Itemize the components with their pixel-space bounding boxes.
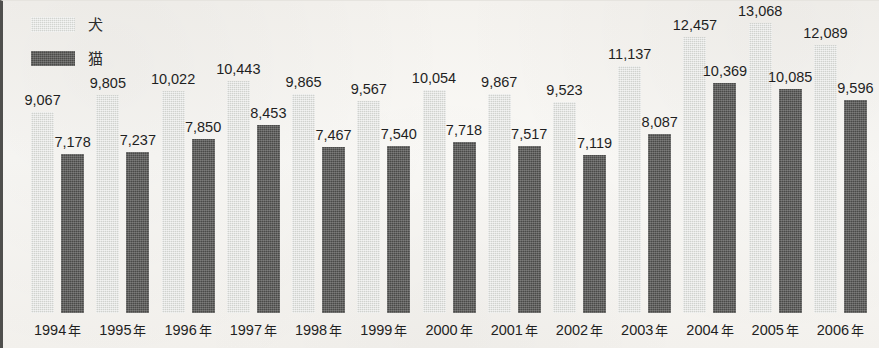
bar-cat: 7,718 (453, 1, 476, 313)
year-unit: 年 (264, 323, 277, 338)
bar-cat: 7,467 (322, 1, 345, 313)
bar-value-label: 7,467 (315, 128, 351, 143)
bar-rect-dog (162, 91, 185, 313)
bar-rect-cat (583, 155, 606, 313)
bar-dog: 10,443 (227, 1, 250, 313)
bar-value-label: 9,865 (285, 75, 321, 90)
year-unit: 年 (199, 323, 212, 338)
bar-value-label: 7,517 (511, 127, 547, 142)
bar-rect-cat (779, 89, 802, 313)
bar-rect-cat (453, 142, 476, 313)
year-unit: 年 (786, 323, 799, 338)
bar-value-label: 9,567 (351, 82, 387, 97)
bar-value-label: 7,850 (185, 120, 221, 135)
bar-rect-dog (488, 94, 511, 313)
bar-pair: 10,0547,718 (416, 1, 481, 313)
year-unit: 年 (590, 323, 603, 338)
bar-dog: 11,137 (618, 1, 641, 313)
bar-rect-dog (618, 66, 641, 313)
legend-swatch-cat (31, 51, 75, 66)
bar-rect-cat (61, 154, 84, 313)
bar-group: 9,8657,4671998年 (286, 1, 351, 348)
bar-rect-dog (423, 90, 446, 313)
x-axis-label: 1999年 (360, 323, 407, 338)
bar-rect-cat (126, 152, 149, 313)
bar-dog: 13,068 (749, 1, 772, 313)
bar-pair: 9,8657,467 (286, 1, 351, 313)
bar-value-label: 11,137 (608, 47, 651, 62)
x-axis-label: 2005年 (752, 323, 799, 338)
legend-swatch-dog (31, 17, 75, 32)
bar-pair: 11,1378,087 (612, 1, 677, 313)
bar-rect-dog (31, 112, 54, 313)
bar-dog: 12,457 (683, 1, 706, 313)
bar-value-label: 7,178 (54, 135, 90, 150)
bar-value-label: 10,085 (768, 70, 812, 85)
bar-cat: 8,087 (648, 1, 671, 313)
year-unit: 年 (133, 323, 146, 338)
year-unit: 年 (329, 323, 342, 338)
bar-rect-dog (292, 94, 315, 313)
legend-label-cat: 猫 (88, 51, 103, 66)
year-unit: 年 (68, 323, 81, 338)
bar-group: 11,1378,0872003年 (612, 1, 677, 348)
bar-rect-dog (553, 102, 576, 313)
bar-rect-cat (713, 83, 736, 313)
bar-dog: 9,865 (292, 1, 315, 313)
bar-rect-dog (749, 23, 772, 313)
bar-rect-cat (387, 146, 410, 313)
bar-group: 9,5677,5401999年 (351, 1, 416, 348)
bar-value-label: 10,369 (703, 64, 747, 79)
bar-group: 10,0547,7182000年 (416, 1, 481, 348)
bar-value-label: 8,087 (642, 115, 678, 130)
bar-group: 10,4438,4531997年 (221, 1, 286, 348)
bar-rect-cat (192, 139, 215, 313)
bar-rect-cat (322, 147, 345, 313)
plot-area: 9,0677,1781994年9,8057,2371995年10,0227,85… (25, 1, 873, 348)
bar-value-label: 12,089 (803, 26, 847, 41)
bar-value-label: 9,867 (481, 75, 517, 90)
bar-cat: 7,119 (583, 1, 606, 313)
year-unit: 年 (460, 323, 473, 338)
bar-value-label: 12,457 (673, 18, 717, 33)
x-axis-label: 1994年 (34, 323, 81, 338)
bar-chart: 犬 猫 9,0677,1781994年9,8057,2371995年10,022… (0, 0, 879, 348)
x-axis-label: 2000年 (425, 323, 472, 338)
bar-cat: 10,369 (713, 1, 736, 313)
legend-item-dog: 犬 (31, 13, 103, 35)
x-axis-label: 2004年 (686, 323, 733, 338)
bar-pair: 12,45710,369 (677, 1, 742, 313)
x-axis-label: 1995年 (99, 323, 146, 338)
bar-dog: 10,022 (162, 1, 185, 313)
bar-pair: 9,5677,540 (351, 1, 416, 313)
bar-rect-cat (648, 134, 671, 313)
bar-dog: 10,054 (423, 1, 446, 313)
bar-cat: 7,540 (387, 1, 410, 313)
bar-rect-dog (357, 101, 380, 313)
bar-value-label: 10,054 (412, 71, 456, 86)
bar-pair: 9,8677,517 (482, 1, 547, 313)
bar-dog: 12,089 (814, 1, 837, 313)
bar-pair: 9,5237,119 (547, 1, 612, 313)
year-unit: 年 (394, 323, 407, 338)
bar-cat: 7,850 (192, 1, 215, 313)
bar-rect-cat (518, 146, 541, 313)
x-axis-label: 2006年 (817, 323, 864, 338)
year-unit: 年 (721, 323, 734, 338)
bar-rect-cat (844, 100, 867, 313)
bar-dog: 9,567 (357, 1, 380, 313)
bar-value-label: 9,067 (24, 93, 60, 108)
bar-pair: 10,4438,453 (221, 1, 286, 313)
bar-group: 12,45710,3692004年 (677, 1, 742, 348)
bar-group: 9,8677,5172001年 (482, 1, 547, 348)
x-axis-label: 2002年 (556, 323, 603, 338)
bar-group: 10,0227,8501996年 (155, 1, 220, 348)
bar-value-label: 10,022 (151, 72, 195, 87)
bar-cat: 8,453 (257, 1, 280, 313)
bar-value-label: 10,443 (216, 62, 260, 77)
bar-dog: 9,523 (553, 1, 576, 313)
year-unit: 年 (655, 323, 668, 338)
bar-pair: 13,06810,085 (743, 1, 808, 313)
x-axis-label: 1998年 (295, 323, 342, 338)
bar-rect-cat (257, 125, 280, 313)
